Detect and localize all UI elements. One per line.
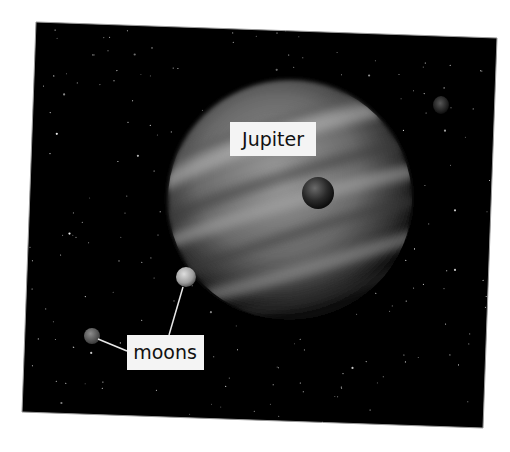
- star: [62, 235, 63, 236]
- star: [56, 133, 58, 135]
- star: [486, 211, 487, 212]
- star: [202, 110, 203, 111]
- star: [26, 75, 27, 76]
- star: [444, 87, 445, 88]
- star: [150, 75, 151, 76]
- star: [485, 307, 486, 308]
- star: [154, 170, 155, 171]
- star: [293, 67, 294, 68]
- star: [383, 376, 384, 377]
- star: [447, 24, 449, 26]
- star: [132, 100, 133, 101]
- star: [192, 285, 193, 286]
- star: [43, 86, 44, 87]
- star: [89, 197, 90, 198]
- faint-moon: [433, 96, 449, 114]
- star: [497, 222, 498, 223]
- star: [465, 137, 466, 138]
- star: [428, 223, 429, 224]
- star: [173, 300, 174, 301]
- star: [167, 22, 168, 23]
- star: [337, 52, 338, 53]
- star: [157, 134, 158, 135]
- star: [60, 402, 62, 404]
- star: [256, 36, 257, 37]
- star: [278, 367, 279, 368]
- star: [225, 386, 226, 387]
- star: [450, 107, 451, 108]
- star: [24, 146, 25, 147]
- star: [175, 21, 177, 23]
- star: [337, 396, 338, 397]
- star: [210, 311, 212, 313]
- star: [24, 152, 25, 153]
- star: [55, 339, 56, 340]
- moons-label: moons: [127, 335, 204, 370]
- star: [445, 324, 446, 325]
- star: [413, 288, 414, 289]
- star: [120, 342, 121, 343]
- star: [63, 93, 65, 95]
- star: [32, 288, 33, 289]
- star: [233, 42, 234, 43]
- star: [49, 153, 50, 154]
- star: [134, 53, 136, 55]
- star: [377, 382, 378, 383]
- star: [446, 270, 447, 271]
- star: [341, 388, 342, 389]
- star: [50, 112, 51, 113]
- star: [38, 338, 39, 339]
- star: [60, 254, 61, 255]
- star: [237, 349, 238, 350]
- star: [449, 354, 450, 355]
- star: [366, 361, 367, 362]
- star: [368, 74, 370, 76]
- star: [489, 180, 490, 181]
- star: [27, 38, 28, 39]
- star: [389, 311, 390, 312]
- star: [103, 37, 104, 38]
- star: [298, 36, 299, 37]
- star: [232, 32, 233, 33]
- star: [113, 80, 114, 81]
- star: [405, 361, 406, 362]
- star: [107, 50, 108, 51]
- star: [370, 409, 371, 410]
- star: [468, 343, 469, 344]
- star: [113, 292, 114, 293]
- star: [73, 347, 74, 348]
- star: [93, 54, 94, 55]
- star: [53, 321, 54, 322]
- star: [127, 122, 128, 123]
- star: [150, 257, 151, 258]
- star: [25, 151, 26, 152]
- star: [211, 404, 212, 405]
- star: [100, 22, 101, 23]
- star: [444, 130, 446, 132]
- star: [85, 296, 86, 297]
- star: [323, 428, 324, 429]
- star: [294, 343, 295, 344]
- star: [494, 416, 495, 417]
- star: [141, 320, 142, 321]
- star: [254, 411, 255, 412]
- star: [270, 404, 271, 405]
- star: [414, 248, 415, 249]
- star: [376, 28, 377, 29]
- star: [156, 390, 157, 391]
- star: [490, 281, 491, 282]
- star: [141, 262, 142, 263]
- star: [375, 293, 376, 294]
- star: [450, 65, 451, 66]
- star: [302, 57, 303, 58]
- star: [443, 288, 444, 289]
- star: [127, 30, 128, 31]
- star: [189, 414, 190, 415]
- star: [277, 367, 278, 368]
- star: [82, 222, 83, 223]
- star: [88, 242, 89, 243]
- star: [40, 426, 41, 427]
- star: [392, 305, 393, 306]
- star: [137, 155, 139, 157]
- star: [454, 209, 456, 211]
